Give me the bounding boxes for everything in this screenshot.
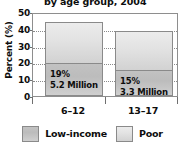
y-tick-label-50: 50 <box>2 8 30 18</box>
x-tick-left <box>32 97 33 104</box>
chart-legend: Low-income Poor <box>0 118 185 149</box>
x-axis-label-6-12: 6–12 <box>43 105 103 116</box>
y-tick-label-40: 40 <box>2 25 30 35</box>
y-tick-label-10: 10 <box>2 75 30 85</box>
bar-segment-poor-6-12[interactable] <box>45 22 103 64</box>
bar-label-percent-6-12: 19% <box>50 69 70 79</box>
legend-label-poor: Poor <box>139 128 163 139</box>
legend-item-poor[interactable]: Poor <box>116 126 163 142</box>
chart-figure: by age group, 2004 Percent (%) 50 40 30 … <box>0 0 185 149</box>
legend-swatch-poor-icon <box>116 126 133 142</box>
bar-segment-poor-13-17[interactable] <box>115 31 173 72</box>
x-axis-label-13-17: 13–17 <box>113 105 173 116</box>
bar-label-count-6-12: 5.2 Million <box>50 80 98 90</box>
bar-group-6-12[interactable]: 19% 5.2 Million <box>45 22 103 96</box>
legend-swatch-low-income-icon <box>22 126 39 142</box>
legend-label-low-income: Low-income <box>45 128 107 139</box>
x-tick-middle <box>105 97 106 104</box>
bar-label-count-13-17: 3.3 Million <box>120 87 168 97</box>
y-tick-label-30: 30 <box>2 42 30 52</box>
bar-label-percent-13-17: 15% <box>120 76 140 86</box>
bar-segment-low-income-13-17[interactable]: 15% 3.3 Million <box>115 70 173 96</box>
y-tick-label-0: 0 <box>2 92 30 102</box>
chart-title: by age group, 2004 <box>44 0 146 7</box>
x-tick-right <box>177 97 178 104</box>
x-axis: 6–12 13–17 <box>32 97 178 117</box>
y-tick-label-20: 20 <box>2 58 30 68</box>
bar-group-13-17[interactable]: 15% 3.3 Million <box>115 31 173 97</box>
bar-segment-low-income-6-12[interactable]: 19% 5.2 Million <box>45 63 103 96</box>
legend-item-low-income[interactable]: Low-income <box>22 126 107 142</box>
plot-area: 19% 5.2 Million 15% 3.3 Million <box>32 13 178 97</box>
y-axis-ticks: 50 40 30 20 10 0 <box>0 13 30 97</box>
